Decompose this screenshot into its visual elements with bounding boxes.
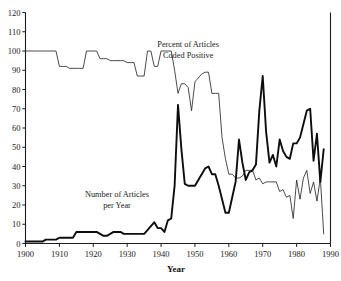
line-chart: 0102030405060708090100110120 19001910192… bbox=[0, 0, 341, 281]
x-tick-label: 1940 bbox=[153, 249, 170, 259]
y-tick-label: 90 bbox=[12, 65, 21, 75]
y-tick-label: 60 bbox=[12, 123, 21, 133]
x-tick-label: 1960 bbox=[220, 249, 237, 259]
y-tick-label: 10 bbox=[12, 219, 21, 229]
series-line-article-count bbox=[26, 76, 324, 242]
x-axis-title: Year bbox=[167, 264, 185, 274]
percent-series-label: Percent of ArticlesCoded Positive bbox=[157, 40, 219, 60]
x-tick-label: 1990 bbox=[322, 249, 339, 259]
x-tick-label: 1930 bbox=[119, 249, 136, 259]
count-series-label: Number of Articlesper Year bbox=[85, 190, 149, 210]
count-series-label-line: Number of Articles bbox=[85, 190, 149, 199]
y-tick-label: 80 bbox=[12, 85, 21, 95]
y-axis-ticks: 0102030405060708090100110120 bbox=[8, 8, 26, 249]
x-axis-ticks: 1900191019201930194019501960197019801990 bbox=[17, 244, 339, 259]
y-tick-label: 100 bbox=[8, 46, 21, 56]
y-tick-label: 40 bbox=[12, 162, 21, 172]
y-tick-label: 110 bbox=[8, 27, 20, 37]
y-tick-label: 120 bbox=[8, 8, 21, 18]
x-tick-label: 1910 bbox=[51, 249, 68, 259]
y-tick-label: 50 bbox=[12, 142, 21, 152]
x-tick-label: 1900 bbox=[17, 249, 34, 259]
y-tick-label: 30 bbox=[12, 181, 21, 191]
x-tick-label: 1980 bbox=[288, 249, 305, 259]
y-tick-label: 0 bbox=[16, 239, 20, 249]
y-tick-label: 20 bbox=[12, 200, 21, 210]
percent-series-label-line: Coded Positive bbox=[163, 51, 214, 60]
x-tick-label: 1970 bbox=[254, 249, 271, 259]
y-tick-label: 70 bbox=[12, 104, 21, 114]
x-tick-label: 1950 bbox=[186, 249, 203, 259]
count-series-label-line: per Year bbox=[103, 201, 131, 210]
chart-figure: 0102030405060708090100110120 19001910192… bbox=[0, 0, 341, 281]
chart-annotations: Percent of ArticlesCoded PositiveNumber … bbox=[85, 40, 219, 210]
x-tick-label: 1920 bbox=[85, 249, 102, 259]
data-series-group bbox=[26, 51, 324, 242]
percent-series-label-line: Percent of Articles bbox=[157, 40, 219, 49]
